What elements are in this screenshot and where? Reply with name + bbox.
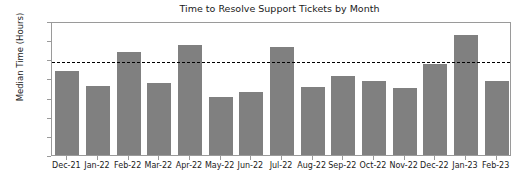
bar bbox=[301, 87, 325, 155]
x-tick-mark bbox=[189, 156, 190, 160]
x-tick-label: Jan-22 bbox=[84, 161, 109, 170]
y-tick-mark bbox=[47, 156, 51, 157]
x-tick-label: Mar-22 bbox=[145, 161, 173, 170]
threshold-line bbox=[52, 62, 510, 63]
y-tick-mark bbox=[47, 99, 51, 100]
x-tick-mark bbox=[97, 156, 98, 160]
bar bbox=[239, 92, 263, 155]
x-tick-mark bbox=[220, 156, 221, 160]
x-tick-label: Jan-23 bbox=[452, 161, 477, 170]
bar bbox=[86, 86, 110, 155]
x-tick-label: Apr-22 bbox=[176, 161, 202, 170]
x-tick-label: Jun-22 bbox=[238, 161, 264, 170]
x-tick-mark bbox=[281, 156, 282, 160]
bar bbox=[485, 81, 509, 155]
x-tick-mark bbox=[128, 156, 129, 160]
bar bbox=[393, 88, 417, 155]
bar bbox=[331, 76, 355, 155]
x-tick-mark bbox=[373, 156, 374, 160]
x-tick-mark bbox=[496, 156, 497, 160]
bar bbox=[270, 47, 294, 155]
x-tick-mark bbox=[250, 156, 251, 160]
x-tick-label: Dec-22 bbox=[420, 161, 449, 170]
x-tick-label: Feb-22 bbox=[114, 161, 141, 170]
plot-area bbox=[51, 22, 511, 156]
bars-layer bbox=[52, 23, 510, 155]
x-tick-mark bbox=[465, 156, 466, 160]
x-tick-mark bbox=[158, 156, 159, 160]
x-tick-label: Dec-21 bbox=[52, 161, 81, 170]
x-tick-label: Oct-22 bbox=[360, 161, 387, 170]
x-tick-mark bbox=[404, 156, 405, 160]
x-tick-mark bbox=[66, 156, 67, 160]
chart-title: Time to Resolve Support Tickets by Month bbox=[48, 3, 511, 15]
bar bbox=[423, 64, 447, 155]
x-tick-mark bbox=[342, 156, 343, 160]
bar bbox=[362, 81, 386, 155]
x-tick-label: Feb-23 bbox=[482, 161, 509, 170]
y-tick-mark bbox=[47, 79, 51, 80]
x-tick-label: Sep-22 bbox=[328, 161, 356, 170]
y-tick-mark bbox=[47, 118, 51, 119]
y-axis-label: Median Time (Hours) bbox=[15, 0, 25, 117]
bar bbox=[117, 52, 141, 155]
bar bbox=[454, 35, 478, 155]
bar bbox=[209, 97, 233, 155]
y-tick-mark bbox=[47, 41, 51, 42]
x-tick-label: Aug-22 bbox=[297, 161, 326, 170]
chart-figure: Time to Resolve Support Tickets by Month… bbox=[0, 0, 518, 184]
x-tick-label: Jul-22 bbox=[270, 161, 293, 170]
x-tick-mark bbox=[434, 156, 435, 160]
x-tick-label: Nov-22 bbox=[389, 161, 417, 170]
y-tick-mark bbox=[47, 137, 51, 138]
bar bbox=[147, 83, 171, 155]
x-tick-mark bbox=[312, 156, 313, 160]
y-tick-mark bbox=[47, 60, 51, 61]
bar bbox=[55, 71, 79, 155]
x-tick-label: May-22 bbox=[205, 161, 234, 170]
y-tick-mark bbox=[47, 22, 51, 23]
